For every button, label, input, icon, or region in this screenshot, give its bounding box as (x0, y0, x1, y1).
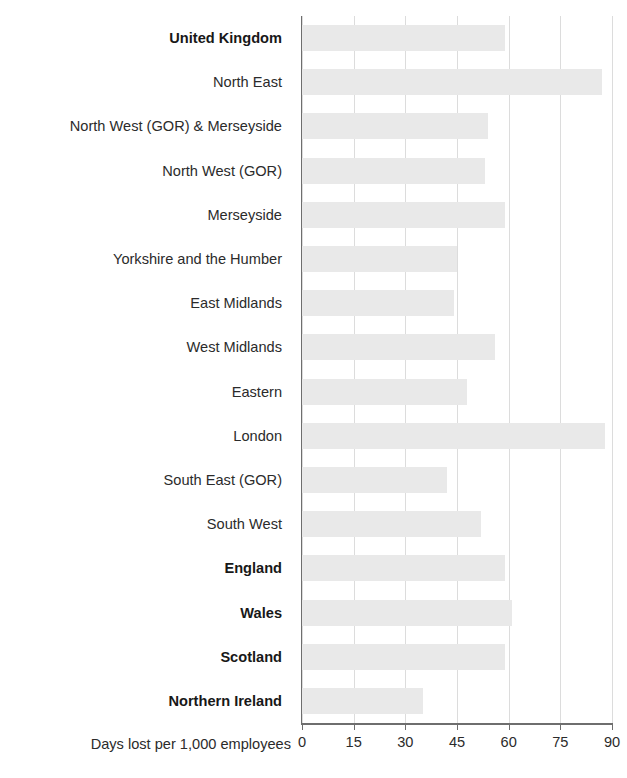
x-axis-tick-label: 15 (334, 735, 374, 750)
x-axis-tick (405, 723, 406, 730)
category-label: South West (0, 517, 282, 532)
x-axis-tick-label: 30 (385, 735, 425, 750)
category-label: Scotland (0, 650, 282, 665)
x-axis-tick-label: 0 (282, 735, 322, 750)
category-label: London (0, 429, 282, 444)
x-axis-tick-label: 45 (437, 735, 477, 750)
bar (302, 25, 505, 51)
category-label: North West (GOR) (0, 164, 282, 179)
category-label: North East (0, 75, 282, 90)
category-label: West Midlands (0, 340, 282, 355)
x-axis-tick (354, 723, 355, 730)
gridline (612, 16, 613, 723)
gridline (560, 16, 561, 723)
x-axis-tick-label: 60 (489, 735, 529, 750)
category-label: Wales (0, 606, 282, 621)
plot-area (302, 16, 612, 723)
x-axis-tick (612, 723, 613, 730)
bar (302, 600, 512, 626)
category-label: Yorkshire and the Humber (0, 252, 282, 267)
x-axis-tick (457, 723, 458, 730)
bar (302, 467, 447, 493)
bar (302, 688, 423, 714)
bar (302, 246, 457, 272)
category-label: Northern Ireland (0, 694, 282, 709)
bar-chart: United KingdomNorth EastNorth West (GOR)… (0, 0, 627, 778)
bar (302, 202, 505, 228)
category-axis-labels: United KingdomNorth EastNorth West (GOR)… (0, 16, 293, 723)
category-label: United Kingdom (0, 31, 282, 46)
bar (302, 290, 454, 316)
bar (302, 644, 505, 670)
bar (302, 423, 605, 449)
category-label: Merseyside (0, 208, 282, 223)
bar (302, 511, 481, 537)
category-label: South East (GOR) (0, 473, 282, 488)
category-label: England (0, 561, 282, 576)
bar (302, 113, 488, 139)
x-axis-tick (509, 723, 510, 730)
bar (302, 69, 602, 95)
bar (302, 334, 495, 360)
x-axis-tick-label: 75 (540, 735, 580, 750)
x-axis-tick (302, 723, 303, 730)
x-axis-tick-label: 90 (592, 735, 627, 750)
x-axis-title: Days lost per 1,000 employees (0, 737, 291, 752)
category-label: Eastern (0, 385, 282, 400)
category-label: North West (GOR) & Merseyside (0, 119, 282, 134)
bar (302, 555, 505, 581)
bar (302, 379, 467, 405)
bar (302, 158, 485, 184)
category-label: East Midlands (0, 296, 282, 311)
x-axis-tick (560, 723, 561, 730)
